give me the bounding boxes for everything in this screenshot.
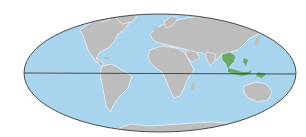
- caribbean: [104, 57, 110, 59]
- world-map: [0, 0, 306, 137]
- map-canvas: [0, 0, 306, 137]
